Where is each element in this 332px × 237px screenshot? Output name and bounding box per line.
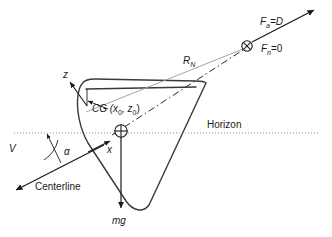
body-axes-group <box>70 82 110 152</box>
diagram-canvas: Fa=D Fn=0 RN CG (x0, z0) Horizon V <box>0 0 332 237</box>
alpha-label-group: α <box>64 146 70 157</box>
weight-label-group: mg <box>112 215 126 226</box>
cg-label-mid: , z <box>122 103 133 114</box>
cg-marker-group <box>114 124 127 137</box>
velocity-arrow <box>47 134 61 163</box>
aero-force-label: Fa=D <box>260 16 283 29</box>
resultant-radius-label-group: RN <box>183 55 196 68</box>
pressure-center-marker-group <box>242 41 252 51</box>
normal-force-value: =0 <box>271 43 283 54</box>
axis-z-label-group: z <box>62 69 68 80</box>
cg-label: CG (x0, z0) <box>92 103 140 116</box>
aero-force-label-group: Fa=D <box>260 16 283 29</box>
axis-z-label: z <box>62 69 68 80</box>
horizon-label-group: Horizon <box>207 119 241 130</box>
body-chord-line <box>86 87 196 89</box>
normal-force-label: Fn=0 <box>261 43 283 56</box>
diagram-svg: Fa=D Fn=0 RN CG (x0, z0) Horizon V <box>0 0 332 237</box>
velocity-label-group: V <box>9 143 17 154</box>
resultant-radius-symbol: R <box>183 55 190 66</box>
velocity-group <box>47 134 61 163</box>
vehicle-body-outline <box>77 79 206 210</box>
resultant-radius-subscript: N <box>190 61 196 68</box>
weight-label: mg <box>112 215 126 226</box>
centerline-label: Centerline <box>35 181 81 192</box>
aero-force-value: =D <box>270 16 283 27</box>
alpha-label: α <box>64 146 70 157</box>
axis-x-label: x <box>106 144 113 155</box>
cg-label-group: CG (x0, z0) <box>92 103 140 116</box>
horizon-label: Horizon <box>207 119 241 130</box>
axis-x-label-group: x <box>106 144 113 155</box>
cg-label-main: CG (x <box>92 103 119 114</box>
cg-label-end: ) <box>136 103 139 114</box>
normal-force-label-group: Fn=0 <box>261 43 283 56</box>
body-axis-z-arrow <box>70 82 87 106</box>
body-outline-group <box>77 79 206 210</box>
velocity-label: V <box>9 143 17 154</box>
resultant-radius-label: RN <box>183 55 196 68</box>
centerline-label-group: Centerline <box>35 181 81 192</box>
